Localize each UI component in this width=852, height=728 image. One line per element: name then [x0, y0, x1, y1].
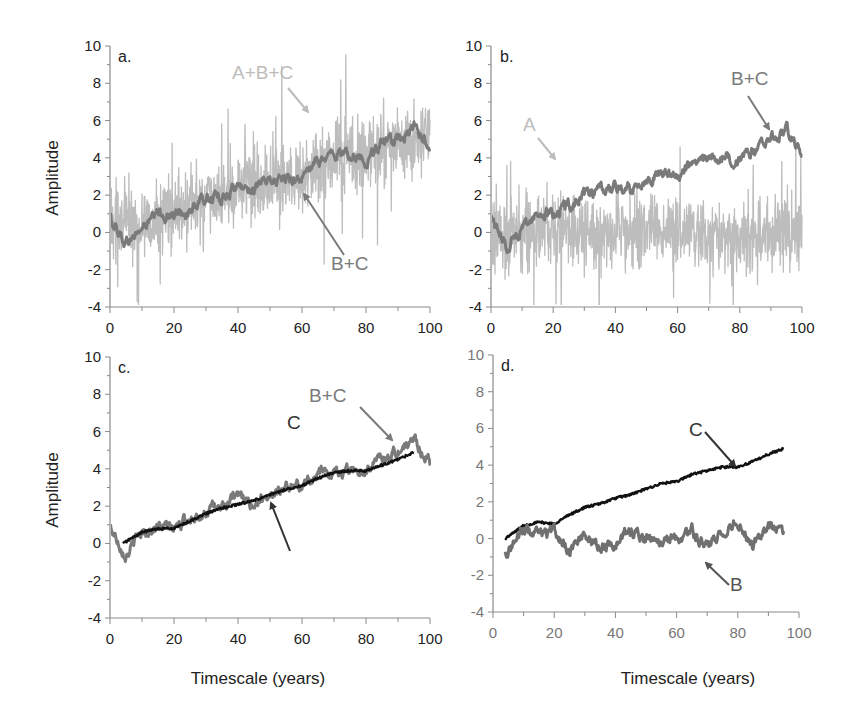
x-tick-label: 40	[607, 319, 624, 336]
y-tick-label: -4	[88, 609, 101, 626]
x-tick-label: 100	[789, 319, 814, 336]
y-tick-label: 2	[93, 186, 101, 203]
x-tick-label: 20	[545, 319, 562, 336]
x-tick-label: 0	[487, 319, 495, 336]
panel-d: -4-20246810020406080100d.	[467, 346, 811, 641]
annotation-arrow	[360, 407, 392, 440]
annotation-arrow	[538, 138, 555, 159]
plot-area	[491, 122, 802, 334]
y-tick-label: 0	[474, 223, 482, 240]
y-tick-label: -4	[471, 603, 484, 620]
x-tick-label: 100	[786, 624, 811, 641]
series-line-b-c	[110, 435, 430, 562]
y-tick-label: 6	[93, 112, 101, 129]
series-line-b	[505, 521, 784, 558]
y-tick-label: 6	[474, 112, 482, 129]
x-tick-label: 20	[166, 630, 183, 647]
y-tick-label: -4	[469, 298, 482, 315]
y-tick-label: 0	[476, 530, 484, 547]
annotation-arrow	[271, 503, 290, 551]
x-tick-label: 60	[669, 319, 686, 336]
x-tick-label: 20	[546, 624, 563, 641]
y-tick-label: 6	[93, 423, 101, 440]
x-tick-label: 60	[668, 624, 685, 641]
x-tick-label: 80	[729, 624, 746, 641]
y-tick-label: 8	[93, 74, 101, 91]
panel-letter: c.	[118, 359, 130, 376]
y-tick-label: 10	[84, 348, 101, 365]
y-tick-label: 0	[93, 534, 101, 551]
y-axis-title: Amplitude	[43, 452, 62, 528]
x-axis-title: Timescale (years)	[621, 669, 755, 688]
plot-area	[110, 435, 430, 562]
annotation-label-a: A	[523, 114, 536, 135]
annotation-label-b-c: B+C	[331, 253, 369, 274]
y-tick-label: 8	[474, 74, 482, 91]
annotation-label-c: C	[287, 412, 301, 433]
x-tick-label: 40	[230, 630, 247, 647]
x-tick-label: 80	[731, 319, 748, 336]
x-tick-label: 60	[294, 630, 311, 647]
plot-area	[110, 55, 430, 312]
x-tick-label: 0	[489, 624, 497, 641]
x-tick-label: 0	[106, 319, 114, 336]
plot-area	[505, 448, 784, 557]
y-tick-label: 4	[476, 456, 484, 473]
y-tick-label: 4	[93, 460, 101, 477]
panel-c: -4-20246810020406080100c.	[84, 348, 442, 647]
y-tick-label: -2	[471, 566, 484, 583]
y-tick-label: -2	[469, 261, 482, 278]
annotation-arrow	[706, 563, 729, 585]
axes: -4-20246810020406080100	[467, 346, 811, 641]
series-line-a	[491, 140, 802, 334]
annotation-label-b-c: B+C	[731, 68, 769, 89]
y-tick-label: 10	[465, 37, 482, 54]
x-tick-label: 80	[358, 630, 375, 647]
y-tick-label: 4	[474, 149, 482, 166]
annotation-label-b-c: B+C	[309, 385, 347, 406]
y-tick-label: 2	[93, 497, 101, 514]
x-tick-label: 80	[358, 319, 375, 336]
y-tick-label: 8	[476, 383, 484, 400]
y-tick-label: 0	[93, 223, 101, 240]
y-tick-label: 8	[93, 385, 101, 402]
x-axis-title: Timescale (years)	[191, 669, 325, 688]
x-tick-label: 0	[106, 630, 114, 647]
y-tick-label: 2	[474, 186, 482, 203]
y-tick-label: -4	[88, 298, 101, 315]
x-tick-label: 20	[166, 319, 183, 336]
annotation-label-a-b-c: A+B+C	[232, 62, 293, 83]
y-tick-label: 10	[84, 37, 101, 54]
figure: -4-20246810020406080100a.-4-202468100204…	[0, 0, 852, 728]
y-tick-label: -2	[88, 261, 101, 278]
panel-letter: a.	[118, 48, 131, 65]
panel-letter: d.	[501, 357, 514, 374]
annotation-label-c: C	[689, 419, 703, 440]
annotation-label-b: B	[730, 574, 743, 595]
annotation-arrow	[288, 88, 308, 112]
x-tick-label: 100	[417, 630, 442, 647]
x-tick-label: 40	[607, 624, 624, 641]
x-tick-label: 60	[294, 319, 311, 336]
y-tick-label: 4	[93, 149, 101, 166]
panel-letter: b.	[500, 48, 513, 65]
y-axis-title: Amplitude	[43, 140, 62, 216]
y-tick-label: 10	[467, 346, 484, 363]
y-tick-label: 6	[476, 419, 484, 436]
y-tick-label: -2	[88, 572, 101, 589]
x-tick-label: 100	[417, 319, 442, 336]
annotation-arrow	[748, 96, 769, 129]
y-tick-label: 2	[476, 493, 484, 510]
annotation-arrow	[705, 432, 735, 466]
x-tick-label: 40	[230, 319, 247, 336]
